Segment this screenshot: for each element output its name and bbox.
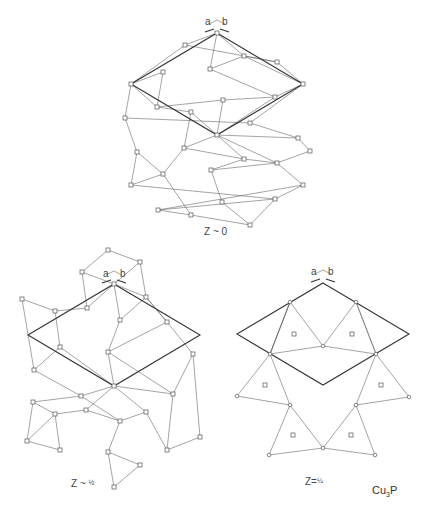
bottom-left-bond-line (108, 452, 114, 487)
bottom-left-bond-line (86, 410, 120, 421)
atom-square-icon (183, 43, 187, 47)
formula-element-cu: Cu (372, 484, 386, 496)
bottom-right-axis-a-arrow-icon (311, 279, 320, 282)
bottom-left-bond-line (34, 370, 81, 396)
atom-square-icon (301, 82, 305, 86)
atom-square-icon (273, 95, 277, 99)
atom-square-icon (349, 433, 353, 437)
bottom-right-bond-line (356, 302, 376, 354)
top-bond-line (250, 199, 275, 225)
top-bond-line (137, 152, 163, 174)
atom-square-icon (31, 400, 35, 404)
bottom-left-bond-line (108, 452, 140, 465)
atom-circle-icon (354, 300, 358, 304)
atom-square-icon (79, 394, 83, 398)
bottom-right-label-fraction: ¼ (317, 477, 323, 484)
bottom-right-bond-line (290, 302, 323, 346)
bottom-left-axis-a-label: a (103, 268, 109, 279)
atom-square-icon (208, 67, 212, 71)
atom-square-icon (129, 183, 133, 187)
bottom-left-bond-line (108, 352, 114, 386)
bottom-left-bond-line (55, 410, 86, 414)
bottom-left-bond-line (120, 412, 146, 421)
bottom-right-unit-cell (237, 283, 409, 385)
top-bond-line (185, 33, 217, 45)
bottom-left-bond-line (114, 284, 146, 297)
atom-square-icon (138, 463, 142, 467)
bottom-left-bond-line (193, 354, 200, 437)
atom-circle-icon (354, 403, 358, 407)
atom-square-icon (155, 105, 159, 109)
atom-circle-icon (268, 352, 272, 356)
atom-square-icon (53, 412, 57, 416)
atom-square-icon (301, 183, 305, 187)
bottom-right-panel-label: Z=¼ (305, 476, 323, 487)
atom-square-icon (182, 146, 186, 150)
atom-square-icon (221, 98, 225, 102)
bottom-right-bond-line (323, 405, 356, 448)
atom-square-icon (32, 368, 36, 372)
atom-square-icon (263, 383, 267, 387)
atom-square-icon (291, 433, 295, 437)
atom-square-icon (161, 70, 165, 74)
atom-square-icon (242, 157, 246, 161)
atom-square-icon (118, 419, 122, 423)
bottom-right-bond-line (323, 346, 376, 354)
atom-square-icon (112, 384, 116, 388)
bottom-left-bond-line (114, 386, 173, 394)
bottom-left-bond-line (87, 284, 114, 308)
bottom-right-axis-a-label: a (311, 266, 317, 277)
top-bond-line (158, 199, 275, 210)
bottom-left-bond-line (81, 386, 114, 396)
bottom-left-bond-line (27, 414, 55, 441)
bottom-left-bond-line (86, 386, 114, 410)
bottom-left-bond-line (108, 320, 120, 352)
bottom-right-bond-line (323, 448, 375, 455)
bottom-right-bond-line (269, 448, 323, 455)
bottom-right-axis-b-label: b (328, 266, 334, 277)
bottom-left-panel-label: Z ~ ½ (71, 478, 94, 489)
bottom-left-bond-line (22, 299, 55, 311)
atom-square-icon (144, 410, 148, 414)
atom-circle-icon (235, 394, 239, 398)
atom-square-icon (379, 383, 383, 387)
top-axis-a-label: a (205, 16, 211, 27)
bottom-left-bond-line (55, 414, 60, 450)
bottom-left-bond-line (108, 322, 167, 352)
atom-square-icon (165, 448, 169, 452)
atom-square-icon (215, 133, 219, 137)
bottom-right-axis-b-arrow-icon (326, 279, 335, 282)
top-bond-line (217, 33, 244, 56)
top-bond-line (131, 185, 275, 199)
atom-square-icon (135, 150, 139, 154)
atom-square-icon (350, 332, 354, 336)
top-bond-line (223, 97, 275, 100)
bottom-left-bond-line (33, 402, 55, 414)
atom-square-icon (209, 168, 213, 172)
atom-square-icon (25, 439, 29, 443)
top-bond-line (244, 56, 303, 84)
bottom-right-bond-line (356, 397, 409, 405)
top-bond-line (125, 118, 250, 123)
atom-square-icon (191, 352, 195, 356)
atom-square-icon (198, 435, 202, 439)
bottom-right-bond-line (376, 354, 409, 397)
bottom-left-bond-line (34, 347, 60, 370)
top-bond-line (131, 84, 157, 107)
bottom-left-bond-line (27, 441, 60, 450)
atom-square-icon (112, 282, 116, 286)
atom-square-icon (273, 197, 277, 201)
top-bond-line (125, 84, 131, 118)
formula-element-p: P (390, 484, 397, 496)
bottom-left-label-fraction: ½ (89, 479, 95, 486)
bottom-right-bond-line (237, 396, 290, 405)
atom-square-icon (156, 208, 160, 212)
bottom-left-bond-line (173, 354, 193, 394)
top-bond-line (277, 62, 303, 84)
top-bond-line (210, 69, 275, 97)
bottom-left-bond-line (167, 437, 200, 450)
atom-square-icon (275, 161, 279, 165)
atom-square-icon (123, 116, 127, 120)
bottom-left-axis-b-arrow-icon (117, 280, 126, 283)
top-panel-label: Z ~ 0 (204, 226, 227, 237)
